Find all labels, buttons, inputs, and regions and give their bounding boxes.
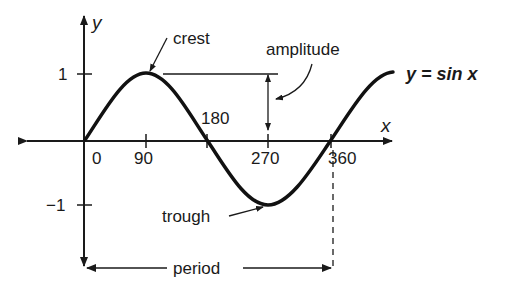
amplitude-label: amplitude — [266, 40, 340, 59]
equation-label: y = sin x — [405, 64, 479, 84]
x-tick-90: 90 — [134, 149, 153, 168]
x-tick-270: 270 — [251, 149, 279, 168]
x-tick-360: 360 — [328, 149, 356, 168]
amplitude-pointer — [276, 64, 312, 99]
sine-diagram: y x 0 90 180 270 360 1 −1 crest amplitud… — [0, 0, 520, 294]
x-axis-label: x — [380, 115, 392, 136]
period-label: period — [173, 259, 220, 278]
trough-label: trough — [162, 207, 210, 226]
x-tick-0: 0 — [92, 149, 101, 168]
y-axis-label: y — [90, 12, 103, 33]
trough-pointer — [229, 207, 263, 216]
x-tick-180: 180 — [201, 109, 229, 128]
sine-curve — [85, 72, 393, 205]
crest-pointer — [150, 38, 167, 71]
y-tick-neg1: −1 — [46, 196, 65, 215]
crest-label: crest — [173, 29, 210, 48]
y-tick-1: 1 — [58, 65, 67, 84]
